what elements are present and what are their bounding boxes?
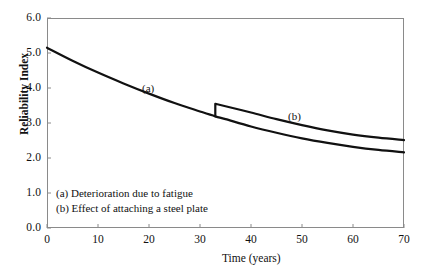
- curve-b-steel-plate: [215, 104, 404, 140]
- x-tick-label: 50: [282, 234, 322, 246]
- legend-item-a: (a) Deterioration due to fatigue: [56, 186, 208, 201]
- x-tick-label: 0: [27, 234, 67, 246]
- reliability-index-chart: 6.0 5.0 4.0 3.0 2.0 1.0 0.0 0 10 20 30 4…: [0, 0, 424, 274]
- y-tick-label: 6.0: [1, 12, 41, 24]
- curve-b-label: (b): [288, 111, 301, 122]
- x-tick-label: 40: [231, 234, 271, 246]
- curve-a-label: (a): [142, 83, 154, 94]
- y-axis-title: Reliability Index: [18, 34, 30, 154]
- y-tick-label: 0.0: [1, 222, 41, 234]
- curve-a-deterioration: [47, 48, 404, 153]
- chart-legend: (a) Deterioration due to fatigue (b) Eff…: [56, 186, 208, 216]
- x-tick-label: 70: [384, 234, 424, 246]
- x-tick-label: 10: [78, 234, 118, 246]
- x-axis-title: Time (years): [222, 252, 281, 264]
- curve-group: [47, 48, 404, 153]
- x-tick-label: 20: [129, 234, 169, 246]
- x-tick-label: 30: [180, 234, 220, 246]
- x-tick-label: 60: [333, 234, 373, 246]
- y-tick-label: 1.0: [1, 187, 41, 199]
- legend-item-b: (b) Effect of attaching a steel plate: [56, 201, 208, 216]
